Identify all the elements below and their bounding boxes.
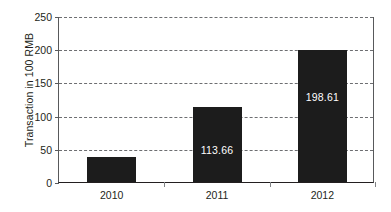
x-category-label: 2010 (100, 189, 123, 201)
y-tick-mark (55, 117, 59, 118)
y-tick-label: 50 (40, 144, 52, 156)
x-category-label: 2012 (311, 189, 334, 201)
y-axis-title: Transaction in 100 RMB (23, 5, 35, 175)
x-category-label: 2011 (206, 189, 229, 201)
plot-area: 050100150200250 37.35113.66198.61 201020… (58, 17, 374, 183)
bar-value-label: 113.66 (193, 144, 242, 156)
y-tick-mark (55, 183, 59, 184)
bar-value-label: 198.61 (298, 91, 347, 103)
y-tick-mark (55, 150, 59, 151)
y-tick-label: 200 (34, 44, 52, 56)
bar-chart: Transaction in 100 RMB 050100150200250 3… (0, 0, 391, 212)
x-tick-mark (270, 182, 271, 187)
y-tick-label: 100 (34, 111, 52, 123)
bar[interactable]: 113.66 (193, 107, 242, 182)
bar[interactable]: 198.61 (298, 50, 347, 182)
y-tick-mark (55, 83, 59, 84)
y-tick-label: 0 (46, 177, 52, 189)
y-tick-label: 250 (34, 11, 52, 23)
x-tick-mark (375, 182, 376, 187)
y-tick-mark (55, 17, 59, 18)
bar[interactable]: 37.35 (87, 157, 136, 182)
y-tick-label: 150 (34, 77, 52, 89)
y-tick-mark (55, 50, 59, 51)
x-tick-mark (164, 182, 165, 187)
gridline (59, 17, 373, 18)
